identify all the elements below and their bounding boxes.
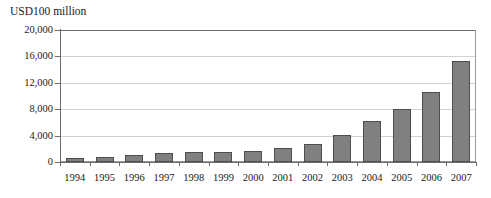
x-axis-tick-mark — [90, 162, 91, 166]
y-axis-tick-label: 16,000 — [1, 50, 53, 61]
x-axis-tick-mark — [446, 162, 447, 166]
bar — [452, 61, 470, 162]
bar — [274, 148, 292, 162]
x-axis-tick-mark — [209, 162, 210, 166]
y-axis-tick-label: 12,000 — [1, 77, 53, 88]
bar — [125, 155, 143, 162]
bar — [422, 92, 440, 162]
y-axis-labels-group: 04,0008,00012,00016,00020,000 — [0, 0, 53, 198]
y-axis-tick-label: 8,000 — [1, 103, 53, 114]
bar — [214, 152, 232, 162]
bar — [96, 157, 114, 162]
x-axis-tick-mark — [417, 162, 418, 166]
x-axis-tick-mark — [387, 162, 388, 166]
y-axis-tick-label: 4,000 — [1, 130, 53, 141]
x-axis-tick-mark — [357, 162, 358, 166]
x-axis-tick-mark — [149, 162, 150, 166]
bar — [185, 152, 203, 162]
x-axis-tick-label: 2007 — [441, 172, 481, 184]
bar — [333, 135, 351, 162]
y-axis-tick-label: 20,000 — [1, 24, 53, 35]
x-axis-tick-mark — [298, 162, 299, 166]
bar — [155, 153, 173, 162]
x-axis-tick-mark — [268, 162, 269, 166]
bars-group — [60, 30, 476, 162]
y-axis-tick-label: 0 — [1, 156, 53, 167]
bar — [363, 121, 381, 162]
x-axis-tick-mark — [119, 162, 120, 166]
bar — [393, 109, 411, 162]
x-axis-tick-mark — [238, 162, 239, 166]
x-axis-tick-mark — [179, 162, 180, 166]
bar — [66, 158, 84, 162]
x-axis-tick-mark — [476, 162, 477, 166]
bar — [244, 151, 262, 162]
bar-chart-figure: USD100 million 04,0008,00012,00016,00020… — [0, 0, 491, 198]
bar — [304, 144, 322, 162]
x-axis-tick-mark — [60, 162, 61, 166]
x-axis-tick-mark — [327, 162, 328, 166]
